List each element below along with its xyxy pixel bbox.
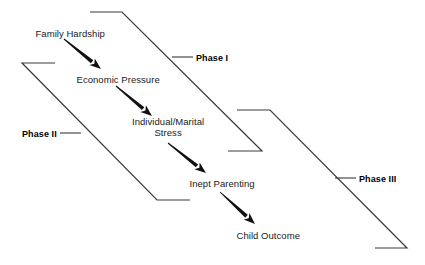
phase-1-label: Phase I bbox=[196, 53, 228, 63]
arrow-pressure-to-stress-shaft bbox=[116, 86, 145, 110]
arrow-stress-to-parenting-shaft bbox=[168, 143, 198, 168]
phase-brackets-group bbox=[22, 12, 407, 248]
node-label-family-hardship: Family Hardship bbox=[36, 28, 105, 39]
node-label-individual-marital-stress: Individual/Marital Stress bbox=[132, 116, 204, 138]
node-label-inept-parenting: Inept Parenting bbox=[190, 178, 255, 189]
arrow-parenting-to-outcome-shaft bbox=[220, 192, 248, 218]
phase-3-label: Phase III bbox=[359, 174, 396, 184]
node-label-economic-pressure: Economic Pressure bbox=[77, 74, 160, 85]
family-stress-model-diagram: Family Hardship Economic Pressure Indivi… bbox=[0, 0, 425, 265]
node-label-child-outcome: Child Outcome bbox=[237, 230, 300, 241]
node-label-line-2: Stress bbox=[154, 127, 181, 138]
diagram-canvas bbox=[0, 0, 425, 265]
phase-2-label: Phase II bbox=[22, 129, 57, 139]
node-label-line-1: Individual/Marital bbox=[132, 116, 204, 127]
arrow-hardship-to-pressure-shaft bbox=[64, 39, 94, 64]
